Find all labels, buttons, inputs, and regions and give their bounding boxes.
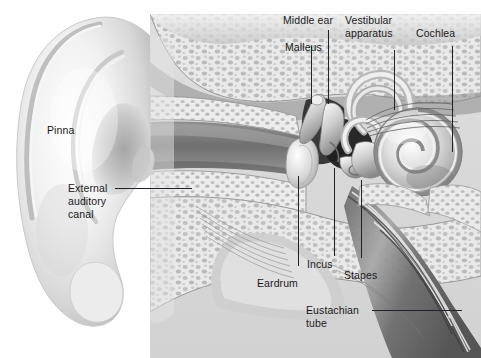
label-external-canal-line2: auditory bbox=[68, 195, 106, 208]
label-malleus: Malleus bbox=[285, 41, 322, 54]
label-vestibular-apparatus-line2: apparatus bbox=[345, 27, 393, 40]
label-stapes: Stapes bbox=[344, 269, 377, 282]
label-eustachian-line2: tube bbox=[306, 317, 327, 330]
label-middle-ear: Middle ear bbox=[283, 14, 333, 27]
label-eardrum: Eardrum bbox=[257, 277, 298, 290]
label-eustachian-line1: Eustachian bbox=[306, 304, 359, 317]
pinna-outer-ear bbox=[17, 17, 155, 326]
label-external-canal-line1: External bbox=[68, 182, 107, 195]
label-external-canal-line3: canal bbox=[68, 208, 94, 221]
ear-anatomy-figure: Middle ear Vestibular apparatus Cochlea … bbox=[0, 0, 481, 358]
label-pinna: Pinna bbox=[47, 124, 74, 137]
label-incus: Incus bbox=[307, 258, 333, 271]
label-cochlea: Cochlea bbox=[416, 27, 455, 40]
ear-anatomy-illustration bbox=[0, 0, 481, 358]
label-vestibular-apparatus-line1: Vestibular bbox=[345, 14, 392, 27]
